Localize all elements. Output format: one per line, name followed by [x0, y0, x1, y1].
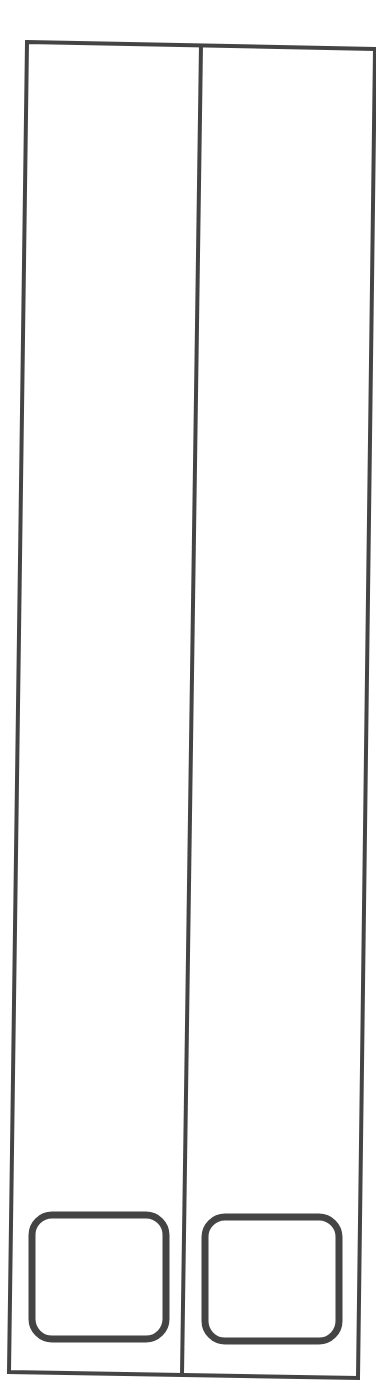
cabinet-svg: [0, 0, 376, 1398]
center-divider: [182, 45, 201, 1375]
right-rounded-square: [205, 1217, 339, 1341]
left-rounded-square: [32, 1215, 166, 1339]
